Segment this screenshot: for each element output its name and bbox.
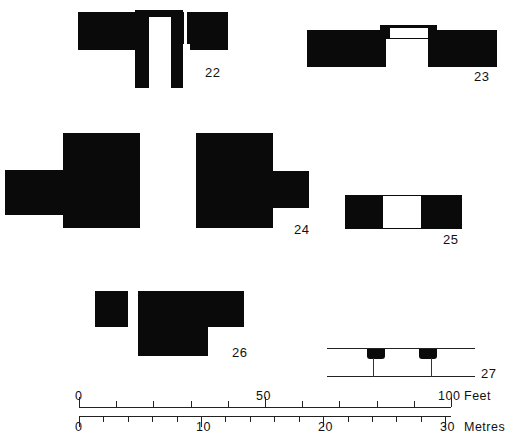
scale-feet-tick-60 <box>302 401 303 407</box>
figure-23-label: 23 <box>474 69 489 84</box>
scale-feet-tick-20 <box>153 401 154 407</box>
scale-feet-tick-70 <box>339 401 340 407</box>
fig27-wall-face-right <box>431 358 432 377</box>
scale-feet-unit: Feet <box>464 389 491 403</box>
fig24a-west-wing <box>5 170 73 215</box>
scale-feet-tick-0 <box>79 397 80 407</box>
scale-feet-tick-40 <box>228 401 229 407</box>
fig27-lower-ground-line <box>327 376 475 377</box>
scale-feet-tick-100 <box>451 397 452 407</box>
figure-27-section <box>327 345 475 379</box>
figure-24-label: 24 <box>294 222 309 237</box>
scale-metres-tick-8 <box>177 417 178 422</box>
scale-metres-tick-4 <box>128 417 129 422</box>
scale-metres-tick-10 <box>201 417 202 427</box>
fig24-main-block <box>196 133 273 228</box>
fig24-east-wing <box>271 171 309 208</box>
fig27-upper-ground-line <box>327 348 475 349</box>
fig27-wall-stub-left <box>367 349 385 359</box>
fig22-court-west-wall <box>135 10 149 88</box>
figure-26-plan <box>95 291 244 356</box>
figure-23-plan <box>307 25 497 67</box>
scale-metres-tick-18 <box>299 417 300 422</box>
scale-metres-label-20: 20 <box>318 420 333 434</box>
fig26-main-block <box>138 291 244 327</box>
scale-metres-tick-14 <box>250 417 251 422</box>
scale-metres-unit: Metres <box>464 420 505 434</box>
scale-metres-tick-28 <box>421 417 422 422</box>
fig22-court-east-wall <box>171 10 183 88</box>
scale-metres-tick-30 <box>445 417 446 427</box>
scale-feet-tick-50 <box>265 397 266 407</box>
fig25-central-room <box>383 196 421 228</box>
scale-feet-axis <box>79 407 451 408</box>
scale-feet-tick-80 <box>377 401 378 407</box>
fig26-south-block <box>138 325 208 356</box>
scale-metres-tick-12 <box>225 417 226 422</box>
scale-metres-tick-20 <box>323 417 324 427</box>
scale-metres-tick-26 <box>396 417 397 422</box>
fig22-central-court <box>149 17 171 88</box>
fig22-left-wing <box>78 12 138 50</box>
scale-metres-label-10: 10 <box>196 420 211 434</box>
scale-feet-tick-30 <box>191 401 192 407</box>
scale-metres-tick-6 <box>152 417 153 422</box>
figure-27-label: 27 <box>481 366 496 381</box>
figure-24-plan <box>196 133 309 228</box>
fig22-right-wing-notch <box>183 44 190 52</box>
scale-metres-label-30: 30 <box>440 420 455 434</box>
figure-22-label: 22 <box>205 65 220 80</box>
scale-feet-label-100: 100 <box>438 389 460 403</box>
fig27-wall-stub-right <box>419 349 437 359</box>
fig24a-main-block <box>63 133 140 228</box>
figure-25-plan <box>345 195 462 229</box>
figure-26-label: 26 <box>232 345 247 360</box>
fig26-open-slot <box>128 291 138 327</box>
figure-24a-plan <box>5 133 140 228</box>
scale-feet-tick-10 <box>116 401 117 407</box>
scale-metres-tick-24 <box>372 417 373 422</box>
fig23-lower-room <box>386 39 428 67</box>
plan-sheet: { "sheet": { "background_color": "#fffff… <box>0 0 508 444</box>
fig23-upper-room <box>390 28 428 38</box>
scale-bar: 0 50 100 Feet 0 10 20 30 Metres <box>0 384 508 444</box>
fig27-wall-face-left <box>373 358 374 377</box>
scale-metres-tick-2 <box>103 417 104 422</box>
scale-feet-label-50: 50 <box>256 389 271 403</box>
scale-metres-tick-22 <box>348 417 349 422</box>
scale-metres-tick-0 <box>79 417 80 427</box>
scale-metres-tick-16 <box>274 417 275 422</box>
figure-25-label: 25 <box>443 232 458 247</box>
scale-feet-tick-90 <box>414 401 415 407</box>
